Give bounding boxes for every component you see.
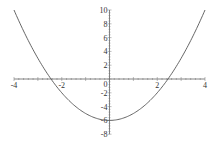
x-tick-label: -2 xyxy=(58,81,65,90)
y-tick-label: -2 xyxy=(101,89,108,98)
x-tick-label: 2 xyxy=(155,81,159,90)
y-tick-label: 10 xyxy=(100,6,108,15)
y-tick-label: 8 xyxy=(104,20,108,29)
y-tick-label: -6 xyxy=(101,116,108,125)
x-tick-label: 4 xyxy=(203,81,207,90)
y-tick-label: 6 xyxy=(104,34,108,43)
y-tick-label: -4 xyxy=(101,103,108,112)
x-tick-label: -4 xyxy=(11,81,18,90)
axes xyxy=(14,10,205,134)
function-plot: -4-2241086420-2-4-6-8 xyxy=(0,0,216,149)
y-tick-label: -8 xyxy=(101,130,108,139)
y-tick-label: 0 xyxy=(104,80,108,89)
y-tick-label: 4 xyxy=(104,47,108,56)
y-tick-label: 2 xyxy=(104,61,108,70)
tick-labels: -4-2241086420-2-4-6-8 xyxy=(11,6,207,139)
